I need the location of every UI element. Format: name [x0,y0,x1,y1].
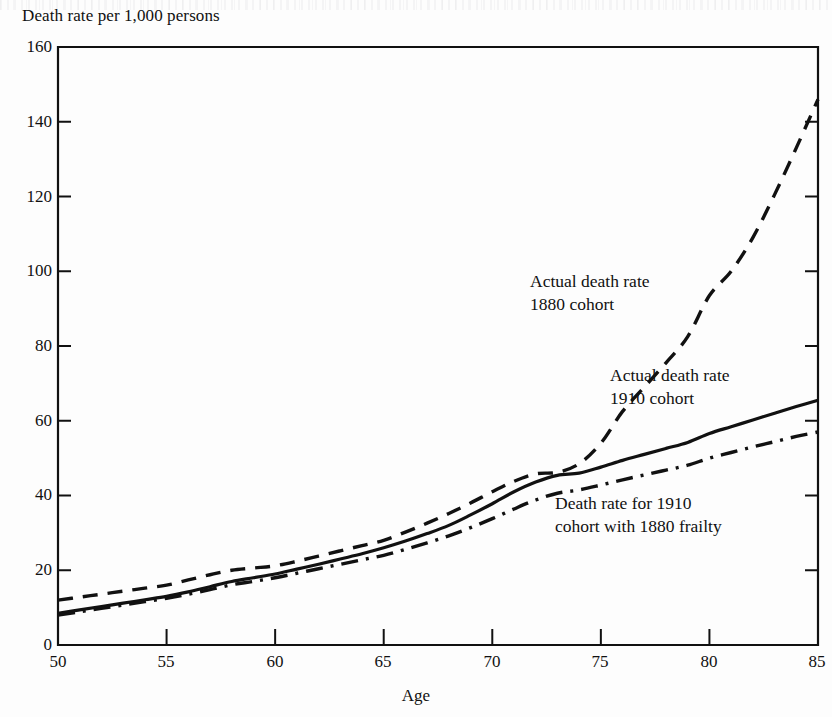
axis-frame [58,47,818,645]
x-axis-ticks [167,629,710,645]
series-line-dashed [58,99,818,600]
data-series-group [58,99,818,615]
figure-container: Death rate per 1,000 persons Age 160 140… [0,0,832,717]
y-axis-ticks [58,122,818,571]
series-line-dashdot [58,432,818,615]
plot-area [0,0,832,717]
series-line-solid [58,400,818,613]
